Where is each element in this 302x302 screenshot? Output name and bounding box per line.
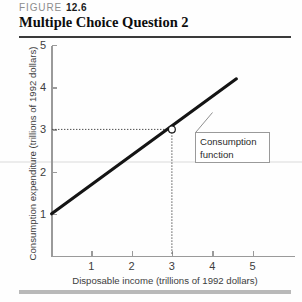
footer-bar: [19, 290, 291, 294]
figure-page: FIGURE 12.6 Multiple Choice Question 2 5…: [0, 0, 302, 302]
consumption-function-callout: Consumption function: [195, 132, 270, 163]
callout-label: Consumption function: [200, 136, 257, 161]
data-point-marker: [169, 126, 176, 133]
chart-plot-area: 5 4 3 2 1 1 2 3 4 5 Consumption expendit…: [0, 0, 302, 302]
callout-leader-line: [196, 113, 213, 133]
